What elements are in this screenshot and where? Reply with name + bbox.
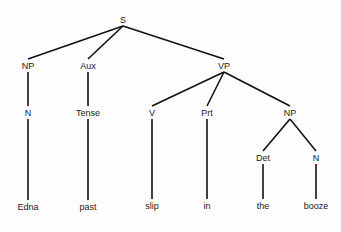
edge-s-np1 xyxy=(28,26,123,59)
node-aux: Aux xyxy=(80,61,96,71)
node-v: V xyxy=(149,108,155,118)
edge-np2-det xyxy=(263,119,290,151)
node-past: past xyxy=(79,202,96,212)
edge-vp-np2 xyxy=(224,72,290,106)
edge-s-vp xyxy=(123,26,224,59)
edge-s-aux xyxy=(88,26,123,59)
edge-vp-v xyxy=(152,72,224,106)
node-the: the xyxy=(257,201,270,211)
node-edna: Edna xyxy=(17,202,38,212)
node-np1: NP xyxy=(22,61,35,71)
node-in: in xyxy=(203,201,210,211)
node-prt: Prt xyxy=(201,108,213,118)
node-s: S xyxy=(120,15,126,25)
syntax-tree-diagram: SNPAuxVPNTenseVPrtNPDetNEdnapastslipinth… xyxy=(0,0,341,232)
edge-vp-prt xyxy=(207,72,224,106)
node-vp: VP xyxy=(218,61,230,71)
node-tense: Tense xyxy=(76,108,100,118)
node-np2: NP xyxy=(284,108,297,118)
node-det: Det xyxy=(256,153,270,163)
node-n1: N xyxy=(25,108,32,118)
node-booze: booze xyxy=(304,201,329,211)
edge-np2-n2 xyxy=(290,119,316,151)
node-n2: N xyxy=(313,153,320,163)
node-slip: slip xyxy=(145,201,159,211)
